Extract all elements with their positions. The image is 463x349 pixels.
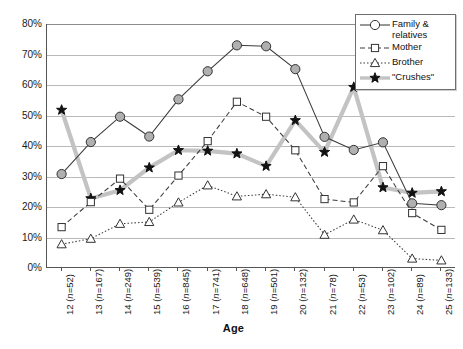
x-tick-label: 12 (n=52) [65,274,75,315]
x-tick-mark [177,267,178,271]
data-point-marker [379,163,386,170]
data-point-marker [349,145,358,154]
legend-item: Family & relatives [358,18,452,40]
data-point-marker [146,206,153,213]
x-tick-mark [90,267,91,271]
data-point-marker [203,67,212,76]
x-tick-label: 19 (n=501) [269,269,279,315]
data-point-marker [262,190,271,198]
x-tick-mark [148,267,149,271]
y-axis: 0%10%20%30%40%50%60%70%80% [0,24,42,268]
x-tick-mark [382,267,383,271]
x-tick-label: 20 (n=132) [298,269,308,315]
data-point-marker [232,192,241,200]
y-tick-label: 0% [2,263,42,273]
data-point-marker [58,224,65,231]
y-tick-label: 30% [2,172,42,182]
data-point-marker [263,113,270,120]
data-point-marker [174,95,183,104]
x-tick-mark [207,267,208,271]
data-point-marker [350,199,357,206]
data-point-marker [203,146,213,156]
x-tick-label: 15 (n=539) [152,269,162,315]
data-point-marker [175,172,182,179]
x-tick-mark [324,267,325,271]
data-point-marker [291,65,300,74]
data-point-marker [57,169,66,178]
data-point-marker [436,186,446,196]
x-tick-mark [440,267,441,271]
y-tick-label: 80% [2,19,42,29]
circle-marker-solid-line-icon [358,18,392,32]
x-tick-label: 21 (n=78) [328,274,338,315]
data-point-marker [378,138,387,147]
legend-item: Mother [358,41,452,55]
x-tick-label: 13 (n=167) [94,269,104,315]
legend-label: Family & relatives [392,18,429,40]
data-point-marker [408,199,417,208]
data-point-marker [116,175,123,182]
x-axis: 12 (n=52)13 (n=167)14 (n=249)15 (n=539)1… [46,271,455,317]
y-tick-label: 40% [2,141,42,151]
star-marker-thick-gray-line-icon [358,71,392,85]
data-point-marker [204,138,211,145]
data-point-marker [203,181,212,189]
x-tick-label: 17 (n=741) [211,269,221,315]
y-tick-label: 50% [2,111,42,121]
x-tick-mark [294,267,295,271]
triangle-marker-dotted-line-icon [358,56,392,70]
x-tick-mark [61,267,62,271]
x-tick-label: 22 (n=53) [357,274,367,315]
x-tick-mark [265,267,266,271]
square-marker-dashed-line-icon [358,41,392,55]
x-axis-title: Age [0,322,463,334]
data-point-marker [57,240,66,248]
data-point-marker [87,199,94,206]
data-point-marker [232,41,241,50]
x-tick-mark [411,267,412,271]
x-tick-mark [236,267,237,271]
data-point-marker [320,230,329,238]
data-point-marker [115,219,124,227]
data-point-marker [86,137,95,146]
data-point-marker [349,215,358,223]
y-tick-label: 10% [2,233,42,243]
chart-container: 0%10%20%30%40%50%60%70%80% 12 (n=52)13 (… [0,0,463,349]
x-axis-title-label: Age [223,322,244,334]
y-tick-label: 20% [2,202,42,212]
data-point-marker [262,42,271,51]
legend-label: Mother [392,41,422,53]
x-tick-label: 14 (n=249) [123,269,133,315]
data-point-marker [321,195,328,202]
data-point-marker [145,132,154,141]
data-point-marker [437,256,446,264]
x-tick-mark [353,267,354,271]
data-point-marker [233,98,240,105]
legend-label: Brother [392,56,423,68]
data-point-marker [292,147,299,154]
data-point-marker [438,226,445,233]
data-point-marker [437,201,446,210]
data-point-marker [86,234,95,242]
y-tick-label: 60% [2,80,42,90]
data-point-marker [320,132,329,141]
x-tick-mark [119,267,120,271]
x-tick-label: 25 (n=133) [444,269,454,315]
data-point-marker [174,198,183,206]
data-point-marker [409,210,416,217]
legend-item: Brother [358,56,452,70]
x-tick-label: 24 (n=89) [415,274,425,315]
data-point-marker [145,217,154,225]
legend: Family & relativesMotherBrother"Crushes" [355,14,456,90]
data-point-marker [408,254,417,262]
data-point-marker [378,182,388,192]
y-tick-label: 70% [2,50,42,60]
legend-label: "Crushes" [392,71,434,83]
legend-item: "Crushes" [358,71,452,85]
data-point-marker [378,226,387,234]
data-point-marker [291,193,300,201]
data-point-marker [115,112,124,121]
x-tick-label: 18 (n=648) [240,269,250,315]
x-tick-label: 23 (n=102) [386,269,396,315]
x-tick-label: 16 (n=845) [181,269,191,315]
